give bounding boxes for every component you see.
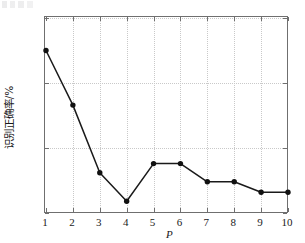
data-point-marker bbox=[232, 179, 237, 184]
plot-area bbox=[44, 16, 288, 213]
data-point-marker bbox=[70, 102, 75, 107]
data-point-marker bbox=[178, 161, 183, 166]
x-tick-label: 10 bbox=[282, 216, 293, 228]
x-tick-label: 5 bbox=[150, 216, 156, 228]
x-tick-label: 4 bbox=[123, 216, 129, 228]
x-tick-label: 2 bbox=[69, 216, 75, 228]
data-point-marker bbox=[124, 199, 129, 204]
x-tick-label: 7 bbox=[204, 216, 210, 228]
chart-figure: 12345678910 9898.59999.5 P 识别正确率/% bbox=[0, 0, 305, 243]
y-axis-title: 识别正确率/% bbox=[1, 76, 16, 160]
x-axis-title: P bbox=[166, 228, 173, 240]
data-point-marker bbox=[151, 161, 156, 166]
data-point-marker bbox=[285, 190, 290, 195]
data-series-line bbox=[45, 17, 289, 214]
x-tick-label: 1 bbox=[42, 216, 48, 228]
x-tick-label: 6 bbox=[177, 216, 183, 228]
data-point-marker bbox=[258, 190, 263, 195]
x-tick-label: 9 bbox=[257, 216, 263, 228]
x-tick-label: 8 bbox=[230, 216, 236, 228]
data-point-marker bbox=[205, 179, 210, 184]
x-tick-label: 3 bbox=[96, 216, 102, 228]
data-point-marker bbox=[43, 48, 48, 53]
series-polyline bbox=[46, 51, 288, 202]
data-point-marker bbox=[97, 170, 102, 175]
top-edge-artifact bbox=[2, 1, 36, 8]
